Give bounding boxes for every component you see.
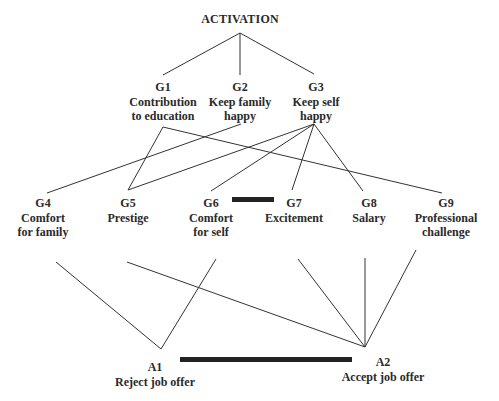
edge-G5-A2: [127, 262, 365, 347]
alternative-label: Reject job offer: [115, 375, 195, 390]
goal-node-g9: G9 Professional challenge: [415, 196, 477, 240]
edge-G2-G4: [47, 124, 241, 193]
goal-node-g6: G6 Comfort for self: [189, 196, 233, 240]
edge-G3-G5: [128, 124, 314, 190]
edge-G6-A1: [161, 259, 216, 349]
goal-code: G9: [415, 196, 477, 211]
edge-G7-A2: [298, 259, 365, 347]
goal-label-line: challenge: [415, 225, 477, 240]
goal-node-g4: G4 Comfort for family: [18, 196, 69, 240]
alternative-node-a1: A1 Reject job offer: [115, 360, 195, 389]
inhibitory-link-g6-g7: [232, 197, 274, 202]
goal-label-line: for family: [18, 225, 69, 240]
goal-code: G8: [352, 196, 385, 211]
alternative-code: A2: [342, 355, 425, 370]
goal-code: G3: [293, 80, 340, 95]
edge-G1-G5: [128, 127, 163, 190]
alternative-label: Accept job offer: [342, 370, 425, 385]
alternative-code: A1: [115, 360, 195, 375]
edge-activation-G3: [240, 33, 314, 74]
goal-label-line: happy: [293, 109, 340, 124]
goal-label-line: Keep self: [293, 95, 340, 110]
edge-G9-A2: [365, 250, 416, 347]
edge-G3-G6: [211, 124, 314, 191]
goal-label-line: to education: [129, 109, 196, 124]
edge-G3-G7: [292, 124, 314, 190]
goal-label-line: happy: [209, 109, 271, 124]
edge-G4-A1: [56, 262, 161, 349]
goal-node-g3: G3 Keep self happy: [293, 80, 340, 124]
goal-label-line: Contribution: [129, 95, 196, 110]
activation-node: ACTIVATION: [201, 12, 279, 27]
edge-activation-G1: [163, 33, 240, 75]
goal-label-line: Professional: [415, 211, 477, 226]
goal-label-line: Comfort: [18, 211, 69, 226]
inhibitory-link-a1-a2: [180, 357, 352, 362]
goal-code: G4: [18, 196, 69, 211]
goal-label-line: Comfort: [189, 211, 233, 226]
alternative-node-a2: A2 Accept job offer: [342, 355, 425, 384]
goal-label-line: for self: [189, 225, 233, 240]
goal-node-g1: G1 Contribution to education: [129, 80, 196, 124]
goal-code: G6: [189, 196, 233, 211]
goal-node-g8: G8 Salary: [352, 196, 385, 225]
goal-node-g5: G5 Prestige: [107, 196, 148, 225]
goal-label-line: Prestige: [107, 211, 148, 226]
goal-node-g2: G2 Keep family happy: [209, 80, 271, 124]
edge-G3-G8: [314, 124, 363, 191]
goal-label-line: Salary: [352, 211, 385, 226]
goal-code: G2: [209, 80, 271, 95]
goal-code: G1: [129, 80, 196, 95]
goal-label-line: Excitement: [265, 211, 323, 226]
goal-code: G5: [107, 196, 148, 211]
goal-label-line: Keep family: [209, 95, 271, 110]
